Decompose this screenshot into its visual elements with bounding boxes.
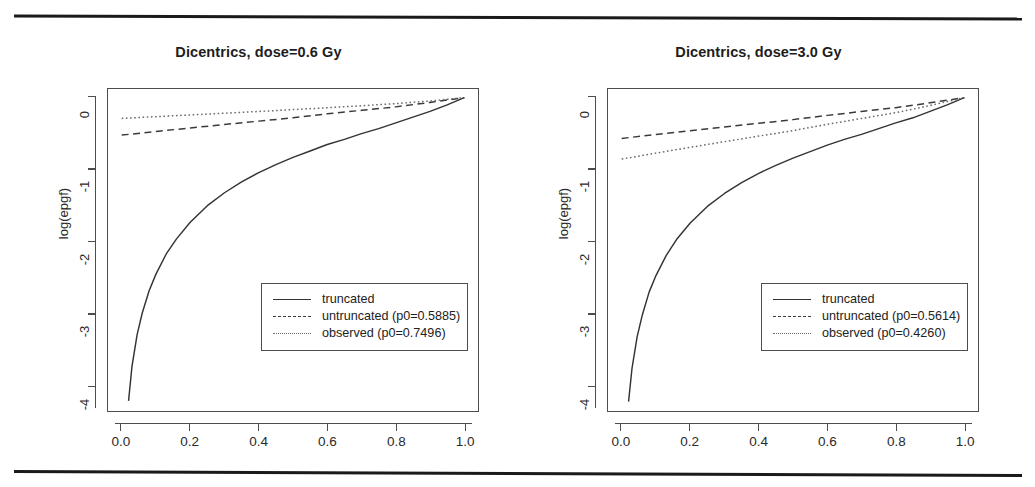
y-tick-label: -1 (577, 170, 592, 204)
x-tick (120, 423, 121, 431)
plot-area-right (607, 88, 979, 412)
legend-row: untruncated (p0=0.5885) (271, 308, 457, 325)
x-tick-label: 0.6 (305, 434, 349, 449)
x-tick (465, 423, 466, 431)
legend-label: truncated (322, 291, 375, 308)
x-tick (189, 423, 190, 431)
x-tick (396, 423, 397, 431)
legend-row: untruncated (p0=0.5614) (771, 308, 957, 325)
x-tick-label: 0.0 (99, 434, 143, 449)
x-tick-label: 0.0 (599, 434, 643, 449)
series-line-solid (629, 98, 965, 402)
x-tick-label: 0.4 (237, 434, 281, 449)
legend-row: truncated (271, 291, 457, 308)
y-tick-label: -3 (77, 315, 92, 349)
series-line-dotted (622, 98, 965, 159)
legend-row: observed (p0=0.7496) (271, 325, 457, 342)
x-tick (258, 423, 259, 431)
legend-label: untruncated (p0=0.5614) (822, 308, 960, 325)
legend-key-dotted-icon (771, 327, 813, 341)
x-tick-label: 1.0 (943, 434, 987, 449)
x-tick (758, 423, 759, 431)
chart-panel-right: Dicentrics, dose=3.0 Gy log(epgf) 0-1-2-… (506, 0, 1011, 487)
x-axis-line-left (115, 423, 472, 424)
legend-right: truncated untruncated (p0=0.5614) observ… (761, 283, 968, 351)
y-tick-label: -4 (77, 387, 92, 421)
x-tick (896, 423, 897, 431)
legend-label: truncated (822, 291, 875, 308)
legend-left: truncated untruncated (p0=0.5885) observ… (261, 283, 468, 351)
legend-label: observed (p0=0.4260) (822, 325, 946, 342)
x-tick-label: 0.8 (374, 434, 418, 449)
y-tick-label: -1 (77, 170, 92, 204)
x-tick-label: 1.0 (443, 434, 487, 449)
legend-label: observed (p0=0.7496) (322, 325, 446, 342)
legend-key-solid-icon (771, 293, 813, 307)
y-tick-label: -2 (577, 242, 592, 276)
legend-row: observed (p0=0.4260) (771, 325, 957, 342)
x-tick-label: 0.4 (737, 434, 781, 449)
x-tick-label: 0.2 (668, 434, 712, 449)
chart-panel-left: Dicentrics, dose=0.6 Gy log(epgf) 0-1-2-… (6, 0, 511, 487)
x-tick (689, 423, 690, 431)
y-axis-line-left (95, 96, 96, 408)
y-tick-label: -2 (77, 242, 92, 276)
curves-left (108, 89, 478, 411)
x-tick (327, 423, 328, 431)
y-axis-line-right (595, 96, 596, 408)
y-tick-label: 0 (77, 97, 92, 131)
scanned-figure: Dicentrics, dose=0.6 Gy log(epgf) 0-1-2-… (0, 0, 1035, 487)
x-tick-label: 0.8 (874, 434, 918, 449)
chart-title-left: Dicentrics, dose=0.6 Gy (6, 44, 511, 60)
x-tick-label: 0.6 (805, 434, 849, 449)
x-tick-label: 0.2 (168, 434, 212, 449)
series-line-solid (129, 98, 465, 401)
legend-key-solid-icon (271, 293, 313, 307)
x-tick (827, 423, 828, 431)
x-axis-line-right (615, 423, 972, 424)
x-tick (620, 423, 621, 431)
legend-row: truncated (771, 291, 957, 308)
legend-key-dashed-icon (771, 310, 813, 324)
x-tick (965, 423, 966, 431)
curves-right (608, 89, 978, 411)
series-line-dotted (122, 98, 465, 119)
legend-key-dashed-icon (271, 310, 313, 324)
y-tick-label: -3 (577, 315, 592, 349)
legend-label: untruncated (p0=0.5885) (322, 308, 460, 325)
plot-area-left (107, 88, 479, 412)
legend-key-dotted-icon (271, 327, 313, 341)
y-tick-label: -4 (577, 387, 592, 421)
chart-title-right: Dicentrics, dose=3.0 Gy (506, 44, 1011, 60)
y-tick-label: 0 (577, 97, 592, 131)
